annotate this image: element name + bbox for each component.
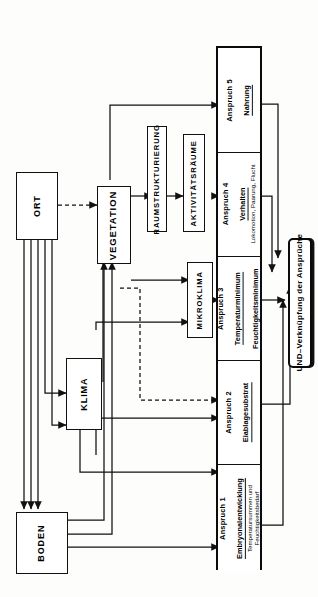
claim-stack: Anspruch 5 Nahrung Anspruch 4 Verhalten … xyxy=(216,46,262,570)
claim-1-number: Anspruch 1 xyxy=(218,478,227,559)
aggregator-label: UND–Verknüpfung der Ansprüche xyxy=(295,234,304,372)
node-mikroklima[interactable]: MIKROKLIMA xyxy=(187,262,213,338)
node-mikroklima-label: MIKROKLIMA xyxy=(196,271,205,329)
claim-anspruch-1[interactable]: Anspruch 1 Embryonalentwicklung Temperat… xyxy=(218,464,260,572)
diagram-canvas: ORT KLIMA BODEN VEGETATION RAUMSTRUKTURI… xyxy=(0,0,318,597)
claim-5-name: Nahrung xyxy=(242,85,252,115)
node-ort[interactable]: ORT xyxy=(16,172,58,240)
claim-5-number: Anspruch 5 xyxy=(226,79,235,122)
node-aktivitaetsraeume[interactable]: AKTIVITÄTSRÄUME xyxy=(183,134,205,232)
connector-layer xyxy=(0,0,318,597)
claim-4-name: Verhalten xyxy=(239,188,249,221)
claim-2-number: Anspruch 2 xyxy=(226,383,235,443)
node-klima[interactable]: KLIMA xyxy=(66,358,102,430)
node-vegetation-label: VEGETATION xyxy=(109,190,120,259)
claim-1-name: Embryonalentwicklung xyxy=(235,478,245,559)
claim-3-name-2: Feuchtigkeitsminimum xyxy=(251,268,261,349)
node-vegetation[interactable]: VEGETATION xyxy=(97,186,131,264)
claim-anspruch-3[interactable]: Anspruch 3 Temperaturminimum Feuchtigkei… xyxy=(218,256,260,360)
claim-anspruch-5[interactable]: Anspruch 5 Nahrung xyxy=(218,48,260,152)
aggregator-und-verknuepfung[interactable]: UND–Verknüpfung der Ansprüche xyxy=(288,238,312,368)
claim-2-name: Eiablagesubstrat xyxy=(242,383,252,443)
node-boden-label: BODEN xyxy=(37,524,47,561)
node-klima-label: KLIMA xyxy=(79,378,89,411)
node-aktivitaetsraeume-label: AKTIVITÄTSRÄUME xyxy=(190,140,199,226)
claim-1-detail: Temperatursummen und Feuchtigkeitsbedarf xyxy=(245,478,259,559)
node-raumstrukturierung[interactable]: RAUMSTRUKTURIERUNG xyxy=(147,126,167,232)
node-raumstrukturierung-label: RAUMSTRUKTURIERUNG xyxy=(153,124,162,234)
claim-anspruch-4[interactable]: Anspruch 4 Verhalten Lokomotion, Paarung… xyxy=(218,152,260,256)
claim-3-number: Anspruch 3 xyxy=(216,268,225,349)
claim-3-name: Temperaturminimum xyxy=(233,272,243,345)
node-boden[interactable]: BODEN xyxy=(16,512,68,574)
claim-anspruch-2[interactable]: Anspruch 2 Eiablagesubstrat xyxy=(218,360,260,464)
claim-4-detail: Lokomotion, Paarung, Flucht xyxy=(249,165,256,244)
node-ort-label: ORT xyxy=(32,195,42,217)
